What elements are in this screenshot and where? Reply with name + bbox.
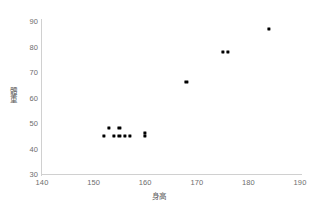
x-tick-label: 150 — [87, 178, 100, 187]
data-point — [144, 134, 147, 137]
scatter-chart: 30405060708090 140150160170180190 體重 身高 — [0, 0, 317, 210]
data-point — [118, 134, 121, 137]
y-tick-label: 80 — [10, 42, 38, 51]
y-axis-title: 體重 — [9, 88, 18, 104]
x-tick-label: 170 — [190, 178, 203, 187]
data-point — [128, 134, 131, 137]
data-point — [221, 50, 224, 53]
data-point — [123, 134, 126, 137]
y-tick-label: 30 — [10, 170, 38, 179]
data-point — [107, 127, 110, 130]
x-tick-label: 140 — [36, 178, 49, 187]
data-point — [185, 81, 188, 84]
y-tick-label: 90 — [10, 17, 38, 26]
data-point — [226, 50, 229, 53]
y-tick-label: 70 — [10, 68, 38, 77]
y-tick-label: 50 — [10, 119, 38, 128]
x-axis-title: 身高 — [0, 190, 317, 201]
data-point — [267, 27, 270, 30]
y-tick-label: 40 — [10, 144, 38, 153]
x-tick-label: 190 — [294, 178, 307, 187]
data-point — [113, 134, 116, 137]
x-axis-line — [41, 174, 302, 175]
data-point — [102, 134, 105, 137]
data-point — [118, 127, 121, 130]
x-tick-label: 160 — [139, 178, 152, 187]
plot-area — [42, 21, 300, 174]
x-tick-label: 180 — [242, 178, 255, 187]
